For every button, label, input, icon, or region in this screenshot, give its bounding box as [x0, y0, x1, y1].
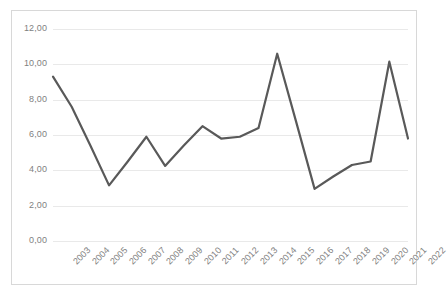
y-axis-tick-label: 4,00	[29, 165, 47, 174]
x-axis-tick-label: 2010	[202, 245, 224, 267]
x-axis-tick-label: 2006	[127, 245, 149, 267]
y-axis: 0,002,004,006,008,0010,0012,00	[12, 29, 47, 241]
y-axis-tick-label: 10,00	[24, 59, 47, 68]
x-axis-tick-label: 2008	[164, 245, 186, 267]
y-axis-tick-label: 8,00	[29, 95, 47, 104]
line-series	[53, 29, 408, 241]
series-polyline	[53, 54, 408, 189]
x-axis-tick-label: 2022	[426, 245, 448, 267]
gridline	[53, 241, 408, 242]
x-axis-tick-label: 2015	[295, 245, 317, 267]
x-axis-tick-label: 2014	[276, 245, 298, 267]
y-axis-tick-label: 0,00	[29, 236, 47, 245]
x-axis-tick-label: 2004	[90, 245, 112, 267]
x-axis-tick-label: 2007	[146, 245, 168, 267]
plot-area	[53, 29, 408, 241]
x-axis-tick-label: 2003	[71, 245, 93, 267]
x-axis-tick-label: 2012	[239, 245, 261, 267]
x-axis-tick-label: 2018	[351, 245, 373, 267]
x-axis-tick-label: 2017	[333, 245, 355, 267]
y-axis-tick-label: 12,00	[24, 24, 47, 33]
x-axis-tick-label: 2016	[314, 245, 336, 267]
x-axis-tick-label: 2005	[108, 245, 130, 267]
x-axis-tick-label: 2020	[389, 245, 411, 267]
x-axis-tick-label: 2009	[183, 245, 205, 267]
y-axis-tick-label: 2,00	[29, 201, 47, 210]
y-axis-tick-label: 6,00	[29, 130, 47, 139]
x-axis-tick-label: 2011	[220, 245, 241, 266]
x-axis-tick-label: 2021	[407, 245, 429, 267]
x-axis: 2003200420052006200720082009201020112012…	[53, 245, 408, 285]
x-axis-tick-label: 2013	[258, 245, 280, 267]
x-axis-tick-label: 2019	[370, 245, 392, 267]
chart-panel: 0,002,004,006,008,0010,0012,00 200320042…	[11, 10, 417, 285]
